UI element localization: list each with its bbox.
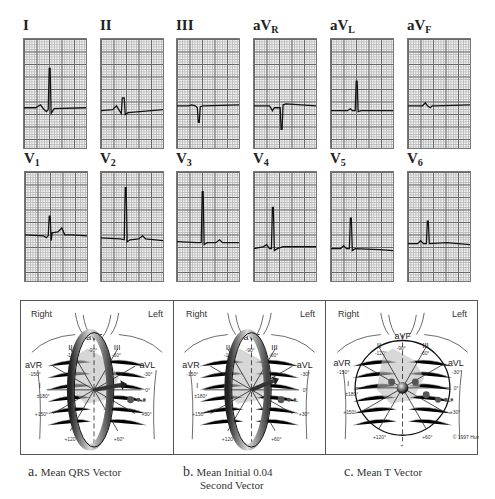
svg-text:aVR: aVR <box>25 360 42 370</box>
lead-label: V3 <box>176 151 192 170</box>
svg-text:+30°: +30° <box>141 412 151 417</box>
caption-b: b.Mean Initial 0.04 Second Vector <box>183 465 273 492</box>
svg-text:II: II <box>377 341 381 350</box>
lead-V6: V6 <box>407 151 471 286</box>
lead-label: aVL <box>330 18 355 37</box>
svg-text:-150°: -150° <box>186 372 198 377</box>
svg-text:aVL: aVL <box>448 358 464 368</box>
lead-label: III <box>176 18 194 33</box>
svg-text:0°: 0° <box>303 388 308 393</box>
svg-text:+60°: +60° <box>271 437 281 442</box>
lead-label: V1 <box>24 151 40 170</box>
lead-III: III <box>176 18 240 153</box>
svg-text:-150°: -150° <box>337 370 349 375</box>
svg-text:+150°: +150° <box>192 412 205 417</box>
diagram-panel-b: Right Left aVFIIIIIaVRaVLI-90°-120°-60°-… <box>173 301 325 454</box>
svg-text:+120°: +120° <box>373 435 386 440</box>
ecg-trace <box>177 192 239 245</box>
svg-text:±180°: ±180° <box>194 394 207 399</box>
svg-text:-30°: -30° <box>452 370 461 375</box>
ecg-strip <box>253 171 317 282</box>
ecg-trace <box>408 221 470 245</box>
svg-text:-30°: -30° <box>143 372 152 377</box>
lead-label: V5 <box>330 151 346 170</box>
caption-text: Mean QRS Vector <box>41 466 121 478</box>
lead-I: I <box>23 18 87 153</box>
caption-letter: c. <box>344 464 354 479</box>
svg-text:-150°: -150° <box>29 372 41 377</box>
ecg-strip <box>407 38 471 149</box>
diagram-panel-c: Right Left aVFIIIIIaVRaVLI-90°-120°-60°-… <box>325 301 479 454</box>
lead-label: aVR <box>253 18 279 37</box>
caption-c: c.Mean T Vector <box>344 465 422 479</box>
lead-label: I <box>23 18 29 33</box>
ecg-trace <box>101 98 163 115</box>
svg-text:-30°: -30° <box>301 372 310 377</box>
svg-text:aVR: aVR <box>182 360 199 370</box>
svg-text:+30°: +30° <box>299 412 309 417</box>
ecg-trace <box>331 81 393 111</box>
svg-text:-60°: -60° <box>112 353 121 358</box>
svg-text:III: III <box>422 341 429 350</box>
svg-text:+60°: +60° <box>114 437 124 442</box>
lead-II: II <box>100 18 164 153</box>
ecg-trace <box>24 68 86 113</box>
lead-label: II <box>100 18 112 33</box>
ecg-trace <box>254 104 316 130</box>
lead-V4: V4 <box>253 151 317 286</box>
ecg-trace <box>101 188 163 242</box>
caption-letter: b. <box>183 464 194 479</box>
ecg-trace <box>254 207 316 250</box>
svg-text:-90°: -90° <box>397 346 406 351</box>
svg-text:+: + <box>401 443 404 448</box>
lead-label: V6 <box>407 151 423 170</box>
svg-text:aVR: aVR <box>333 358 350 368</box>
lead-aVR: aVR <box>253 18 317 153</box>
ecg-strip <box>24 171 88 282</box>
caption-letter: a. <box>28 464 38 479</box>
ecg-strip <box>100 38 164 149</box>
ecg-strip <box>330 171 394 282</box>
svg-text:I: I <box>347 380 349 387</box>
svg-text:+150°: +150° <box>343 410 356 415</box>
svg-text:0°: 0° <box>145 388 150 393</box>
lead-aVL: aVL <box>330 18 394 153</box>
lead-aVF: aVF <box>407 18 471 153</box>
svg-text:aVL: aVL <box>297 360 313 370</box>
svg-text:+150°: +150° <box>35 412 48 417</box>
svg-text:±180°: ±180° <box>37 394 50 399</box>
caption-text: Mean Initial 0.04 <box>197 466 273 478</box>
vector-diagram-frame: Right Left aVFIIIIIaVRaVLI-90°-120°-60°-… <box>20 300 478 455</box>
ecg-strip <box>176 171 240 282</box>
caption-text-line2: Second Vector <box>183 479 264 491</box>
svg-text:0°: 0° <box>454 386 459 391</box>
svg-text:I: I <box>39 382 41 389</box>
ecg-strip <box>176 38 240 149</box>
caption-a: a.Mean QRS Vector <box>28 465 121 479</box>
svg-text:-60°: -60° <box>420 351 429 356</box>
svg-text:III: III <box>271 343 278 352</box>
caption-text: Mean T Vector <box>357 466 422 478</box>
t-vector-diagram: aVFIIIIIaVRaVLI-90°-120°-60°-150°-30°±18… <box>326 301 479 454</box>
lead-V3: V3 <box>176 151 240 286</box>
svg-text:© 1997 Hurst: © 1997 Hurst <box>453 434 479 440</box>
diagram-panel-a: Right Left aVFIIIIIaVRaVLI-90°-120°-60°-… <box>21 301 173 454</box>
ecg-strip <box>407 171 471 282</box>
svg-text:III: III <box>114 343 121 352</box>
ecg-strip <box>100 171 164 282</box>
lead-label: V4 <box>253 151 269 170</box>
ecg-strip <box>330 38 394 149</box>
lead-label: aVF <box>407 18 431 37</box>
svg-text:-90°: -90° <box>246 348 255 353</box>
lead-V1: V1 <box>24 151 88 286</box>
svg-text:aVF: aVF <box>395 331 412 341</box>
svg-text:I: I <box>196 382 198 389</box>
svg-text:aVL: aVL <box>139 360 155 370</box>
ecg-trace <box>177 105 239 123</box>
ecg-strip <box>253 38 317 149</box>
ecg-trace <box>408 103 470 108</box>
svg-text:+60°: +60° <box>422 435 432 440</box>
lead-V2: V2 <box>100 151 164 286</box>
svg-text:-120°: -120° <box>375 351 387 356</box>
ecg-strip <box>23 38 87 149</box>
